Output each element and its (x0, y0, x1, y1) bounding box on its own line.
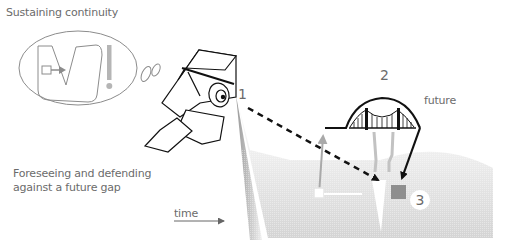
small-square-arrow-icon (42, 66, 66, 74)
person-binoculars-icon (145, 50, 236, 152)
step-2-label: 2 (380, 67, 389, 83)
suspension-bridge-icon (349, 108, 416, 130)
thought-bubble-icon (19, 31, 162, 105)
future-label: future (424, 94, 456, 108)
title-sustaining-continuity: Sustaining continuity (6, 6, 118, 20)
exclamation-icon (106, 45, 112, 89)
gap-square-icon (391, 185, 406, 199)
time-label: time (174, 207, 198, 221)
terrain (236, 95, 493, 240)
step-1-label: 1 (238, 86, 247, 102)
title-foreseeing-gap: Foreseeing and defending against a futur… (13, 167, 173, 195)
step-3-label: 3 (410, 190, 430, 210)
diagram-canvas (0, 0, 506, 248)
